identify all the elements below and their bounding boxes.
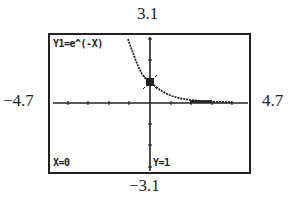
trace-y-value: Y=1 (153, 157, 170, 168)
ymin-label: −3.1 (129, 176, 160, 196)
trace-x-value: X=0 (53, 157, 70, 168)
xmin-label: −4.7 (3, 91, 34, 111)
xmax-label: 4.7 (262, 91, 283, 111)
ymax-label: 3.1 (137, 4, 158, 24)
function-label: Y1=e^(-X) (53, 38, 103, 49)
trace-cursor (146, 78, 154, 86)
calculator-graph-screen: Y1=e^(-X) X=0 Y=1 (48, 33, 251, 174)
function-curve (128, 39, 232, 102)
graph-plot (50, 35, 253, 176)
